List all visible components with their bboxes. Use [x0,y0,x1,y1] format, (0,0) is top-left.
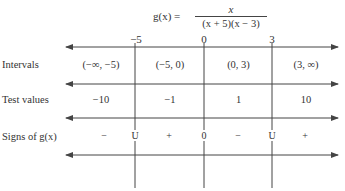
interval-cell: (0, 3) [205,59,272,70]
undefined-marker: U [128,130,142,141]
sign-cell: + [162,130,176,141]
interval-cell: (3, ∞) [273,59,339,70]
sign-cell: + [298,130,312,141]
interval-cell: (−∞, −5) [68,59,134,70]
test-value-cell: −1 [136,94,204,105]
tick-label-neg5: −5 [126,33,146,45]
row-label-test-values: Test values [2,94,49,105]
test-value-cell: 1 [205,94,272,105]
interval-cell: (−5, 0) [136,59,204,70]
tick-label-3: 3 [262,33,282,45]
row-label-signs: Signs of g(x) [2,131,57,142]
test-value-cell: 10 [273,94,339,105]
tick-label-0: 0 [194,33,214,45]
test-value-cell: −10 [68,94,134,105]
zero-marker: 0 [197,130,211,141]
row-label-intervals: Intervals [2,59,39,70]
sign-cell: − [97,130,111,141]
undefined-marker: U [265,130,279,141]
sign-cell: − [231,130,245,141]
